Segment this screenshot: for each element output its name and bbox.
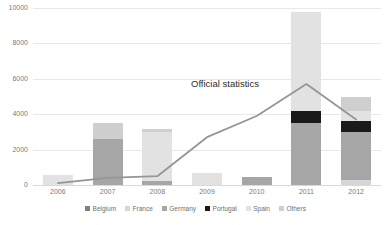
bar-segment [341, 111, 371, 122]
bar-segment [341, 180, 371, 185]
x-axis-tick-label: 2011 [284, 188, 328, 195]
axis-baseline [33, 185, 381, 186]
legend-swatch-icon [162, 206, 167, 211]
y-axis-tick-label: 10000 [0, 4, 28, 11]
x-axis-tick-label: 2012 [334, 188, 378, 195]
x-axis-tick-label: 2007 [86, 188, 130, 195]
bar-column [291, 12, 321, 185]
line-annotation-label: Official statistics [191, 78, 259, 89]
x-axis-tick-label: 2009 [185, 188, 229, 195]
y-axis-tick-label: 8000 [0, 39, 28, 46]
legend-item-label: Belgium [93, 205, 116, 212]
bar-segment [192, 173, 222, 185]
legend-item-label: Germany [169, 205, 196, 212]
bar-segment [341, 132, 371, 180]
x-axis-tick-label: 2006 [36, 188, 80, 195]
y-axis-tick-label: 4000 [0, 110, 28, 117]
legend-swatch-icon [205, 206, 210, 211]
bar-column [43, 175, 73, 185]
gridline [33, 114, 381, 115]
legend-item[interactable]: Spain [246, 205, 270, 212]
legend-swatch-icon [279, 206, 284, 211]
legend-swatch-icon [246, 206, 251, 211]
bar-segment [142, 181, 172, 185]
legend-item[interactable]: Portugal [205, 205, 237, 212]
gridline [33, 8, 381, 9]
legend-item[interactable]: Belgium [85, 205, 116, 212]
legend-item[interactable]: Others [279, 205, 306, 212]
bar-segment [341, 97, 371, 111]
x-axis-tick-label: 2008 [135, 188, 179, 195]
plot-area [33, 8, 381, 185]
legend-item-label: France [133, 205, 153, 212]
bar-segment [43, 175, 73, 185]
legend-swatch-icon [125, 206, 130, 211]
bar-segment [93, 139, 123, 185]
chart-container: 0200040006000800010000 20062007200820092… [0, 0, 391, 225]
legend-swatch-icon [85, 206, 90, 211]
bar-column [341, 97, 371, 185]
bar-column [142, 129, 172, 185]
legend-item[interactable]: France [125, 205, 153, 212]
bar-segment [341, 121, 371, 132]
bar-segment [291, 111, 321, 123]
y-axis-tick-label: 0 [0, 181, 28, 188]
bar-segment [291, 123, 321, 185]
y-axis-tick-label: 2000 [0, 146, 28, 153]
bar-segment [142, 132, 172, 181]
bar-column [242, 177, 272, 185]
x-axis-tick-label: 2010 [235, 188, 279, 195]
legend-item-label: Portugal [213, 205, 237, 212]
legend-item[interactable]: Germany [162, 205, 196, 212]
y-axis-tick-label: 6000 [0, 75, 28, 82]
legend-item-label: Spain [253, 205, 270, 212]
bar-column [93, 123, 123, 185]
chart-legend: BelgiumFranceGermanyPortugalSpainOthers [0, 205, 391, 212]
bar-column [192, 173, 222, 185]
legend-item-label: Others [286, 205, 306, 212]
bar-segment [93, 123, 123, 139]
bar-segment [291, 12, 321, 111]
gridline [33, 43, 381, 44]
official-statistics-line [33, 8, 381, 185]
bar-segment [242, 177, 272, 185]
gridline [33, 150, 381, 151]
